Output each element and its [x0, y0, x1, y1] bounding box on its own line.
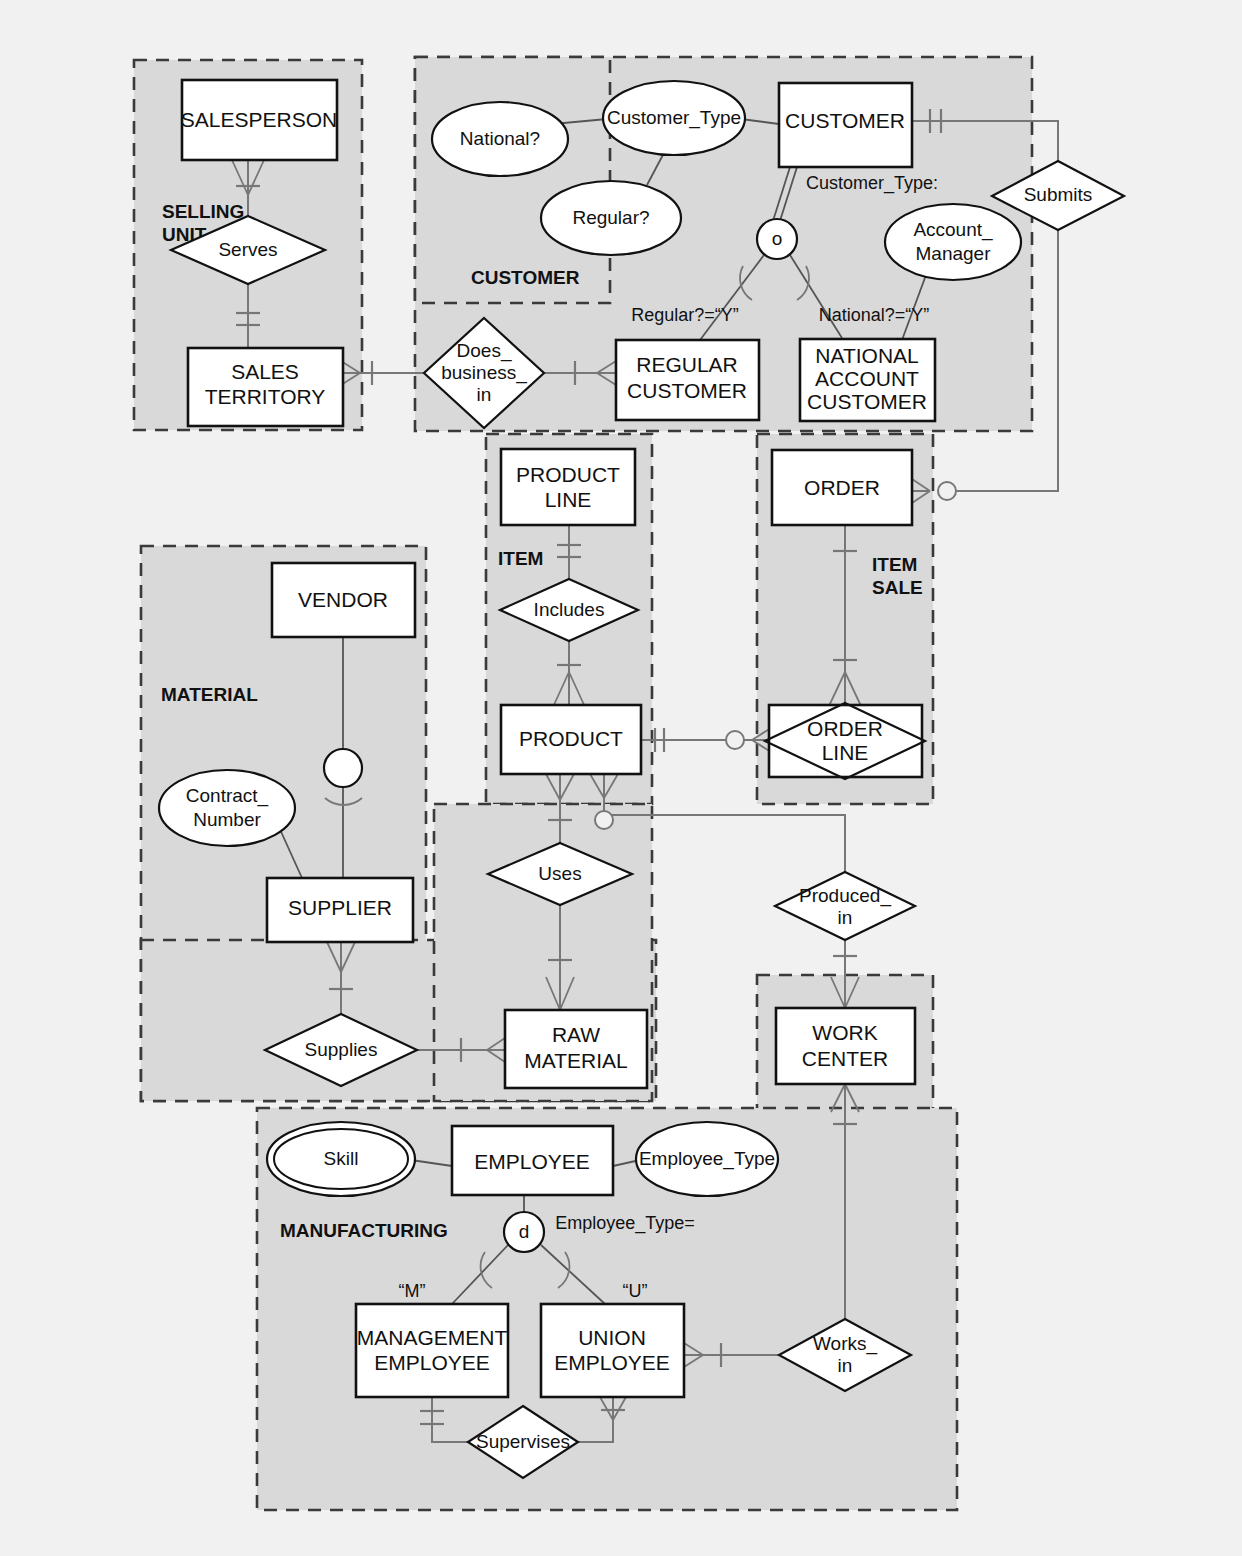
- entity-label-regular-customer-2: CUSTOMER: [627, 379, 747, 402]
- relationship-label-produced-in-1: Produced_: [799, 885, 891, 907]
- entity-employee[interactable]: EMPLOYEE: [452, 1126, 613, 1195]
- subject-area-label-customer: CUSTOMER: [471, 267, 580, 288]
- relationship-label-does-business-in-1: Does_: [457, 340, 512, 362]
- entity-label-regular-customer-1: REGULAR: [636, 353, 738, 376]
- entity-label-national-account-2: ACCOUNT: [815, 367, 919, 390]
- attribute-account-manager[interactable]: Account_ Manager: [885, 204, 1021, 280]
- link-product-order-line: [641, 728, 771, 752]
- entity-label-salesperson: SALESPERSON: [181, 108, 337, 131]
- entity-label-sales-territory-2: TERRITORY: [205, 385, 326, 408]
- subject-area-label-item-sale-2: SALE: [872, 577, 923, 598]
- annotation-u: “U”: [623, 1281, 648, 1301]
- subject-area-label-material: MATERIAL: [161, 684, 258, 705]
- relationship-label-works-in-2: in: [838, 1355, 853, 1376]
- annotation-employee-type-discriminator: Employee_Type=: [555, 1213, 695, 1234]
- er-diagram-canvas: SELLING UNIT CUSTOMER ITEM ITEM SALE MAT…: [0, 0, 1242, 1556]
- entity-label-national-account-1: NATIONAL: [815, 344, 918, 367]
- relationship-label-serves: Serves: [218, 239, 277, 260]
- attribute-contract-number[interactable]: Contract_ Number: [159, 770, 295, 846]
- entity-label-order-line-1: ORDER: [807, 717, 883, 740]
- attribute-skill-multivalued[interactable]: Skill: [267, 1122, 415, 1196]
- discriminator-symbol-o: o: [772, 228, 783, 249]
- relationship-label-does-business-in-2: business_: [441, 362, 527, 384]
- discriminator-overlapping-customer: o: [757, 219, 797, 259]
- entity-label-product: PRODUCT: [519, 727, 623, 750]
- entity-regular-customer[interactable]: REGULAR CUSTOMER: [616, 340, 759, 420]
- relationship-label-includes: Includes: [534, 599, 605, 620]
- entity-raw-material[interactable]: RAW MATERIAL: [505, 1010, 647, 1088]
- entity-order-line-associative[interactable]: ORDER LINE: [765, 703, 925, 779]
- attribute-customer-type[interactable]: Customer_Type: [603, 81, 745, 155]
- relationship-label-supervises: Supervises: [476, 1431, 570, 1452]
- entity-label-mgmt-employee-1: MANAGEMENT: [357, 1326, 508, 1349]
- discriminator-disjoint-employee: d: [504, 1212, 544, 1252]
- subject-area-label-item-sale: ITEM: [872, 554, 917, 575]
- entity-vendor[interactable]: VENDOR: [272, 563, 415, 637]
- entity-customer[interactable]: CUSTOMER: [779, 83, 912, 167]
- entity-order[interactable]: ORDER: [772, 450, 912, 525]
- relationship-produced-in[interactable]: Produced_ in: [775, 872, 915, 940]
- relationship-label-supplies: Supplies: [305, 1039, 378, 1060]
- relationship-label-produced-in-2: in: [838, 907, 853, 928]
- entity-label-national-account-3: CUSTOMER: [807, 390, 927, 413]
- discriminator-symbol-d: d: [519, 1221, 530, 1242]
- entity-sales-territory[interactable]: SALES TERRITORY: [188, 348, 343, 426]
- entity-product-line[interactable]: PRODUCT LINE: [501, 449, 635, 525]
- entity-national-account-customer[interactable]: NATIONAL ACCOUNT CUSTOMER: [800, 339, 935, 421]
- entity-label-order: ORDER: [804, 476, 880, 499]
- entity-label-employee: EMPLOYEE: [474, 1150, 590, 1173]
- annotation-regular-y: Regular?=“Y”: [631, 305, 739, 325]
- entity-label-sales-territory-1: SALES: [231, 360, 299, 383]
- entity-supplier[interactable]: SUPPLIER: [267, 878, 413, 942]
- attribute-label-employee-type: Employee_Type: [639, 1148, 775, 1170]
- entity-work-center[interactable]: WORK CENTER: [776, 1008, 915, 1084]
- entity-product[interactable]: PRODUCT: [501, 705, 641, 774]
- annotation-customer-type-discriminator: Customer_Type:: [806, 173, 938, 194]
- entity-label-product-line-1: PRODUCT: [516, 463, 620, 486]
- attribute-employee-type[interactable]: Employee_Type: [636, 1122, 778, 1196]
- subject-area-label-selling-unit: SELLING: [162, 201, 244, 222]
- attribute-national[interactable]: National?: [432, 102, 568, 176]
- entity-label-customer: CUSTOMER: [785, 109, 905, 132]
- attribute-label-contract-number-1: Contract_: [186, 785, 269, 807]
- entity-label-raw-material-2: MATERIAL: [524, 1049, 627, 1072]
- entity-label-union-employee-1: UNION: [578, 1326, 646, 1349]
- annotation-m: “M”: [399, 1281, 426, 1301]
- attribute-label-account-manager-1: Account_: [913, 219, 993, 241]
- attribute-label-contract-number-2: Number: [193, 809, 261, 830]
- entity-label-supplier: SUPPLIER: [288, 896, 392, 919]
- relationship-label-does-business-in-3: in: [477, 384, 492, 405]
- entity-label-product-line-2: LINE: [545, 488, 592, 511]
- entity-label-union-employee-2: EMPLOYEE: [554, 1351, 670, 1374]
- entity-union-employee[interactable]: UNION EMPLOYEE: [541, 1304, 684, 1397]
- entity-label-raw-material-1: RAW: [552, 1023, 600, 1046]
- attribute-label-national: National?: [460, 128, 540, 149]
- relationship-label-uses: Uses: [538, 863, 581, 884]
- attribute-regular[interactable]: Regular?: [541, 181, 681, 255]
- entity-salesperson[interactable]: SALESPERSON: [181, 80, 337, 160]
- attribute-label-regular: Regular?: [572, 207, 649, 228]
- entity-label-work-center-1: WORK: [812, 1021, 877, 1044]
- annotation-national-y: National?=“Y”: [819, 305, 930, 325]
- entity-label-vendor: VENDOR: [298, 588, 388, 611]
- subject-area-label-item: ITEM: [498, 548, 543, 569]
- relationship-label-submits: Submits: [1024, 184, 1093, 205]
- entity-label-order-line-2: LINE: [822, 741, 869, 764]
- entity-management-employee[interactable]: MANAGEMENT EMPLOYEE: [356, 1304, 508, 1397]
- attribute-label-customer-type: Customer_Type: [607, 107, 741, 129]
- entity-label-work-center-2: CENTER: [802, 1047, 888, 1070]
- attribute-label-account-manager-2: Manager: [916, 243, 992, 264]
- subject-area-label-manufacturing: MANUFACTURING: [280, 1220, 448, 1241]
- relationship-label-works-in-1: Works_: [813, 1333, 877, 1355]
- entity-label-mgmt-employee-2: EMPLOYEE: [374, 1351, 490, 1374]
- attribute-label-skill: Skill: [324, 1148, 359, 1169]
